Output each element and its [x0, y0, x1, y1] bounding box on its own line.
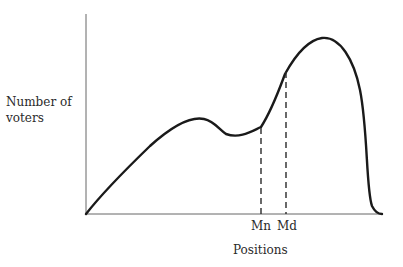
mean-label: Mn [251, 219, 271, 233]
voter-distribution-curve [86, 38, 382, 214]
distribution-chart [0, 0, 403, 267]
median-label: Md [277, 219, 297, 233]
x-axis-label: Positions [233, 243, 288, 257]
